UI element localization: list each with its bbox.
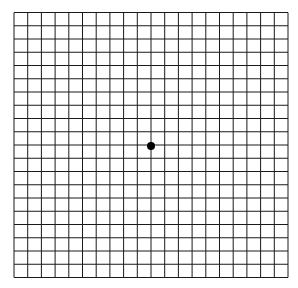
amsler-grid <box>0 0 298 288</box>
center-fixation-dot <box>147 142 155 150</box>
